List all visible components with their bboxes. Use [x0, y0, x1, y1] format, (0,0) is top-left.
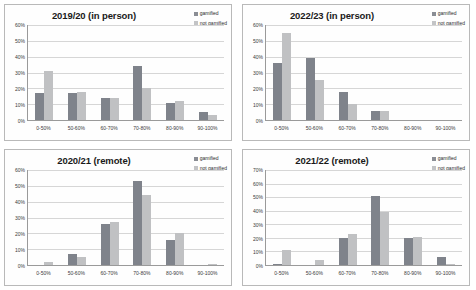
bar-gamified — [273, 63, 282, 120]
y-axis-tick-label: 40% — [253, 54, 263, 60]
chart-panel-1: 2019/20 (in person)gamifiednot gamified0… — [0, 0, 238, 145]
bar-not-gamified — [413, 237, 422, 266]
chart-panel-4: 2021/22 (remote)gamifiednot gamified0%10… — [238, 145, 476, 290]
x-axis-tick-label: 0-50% — [27, 122, 60, 136]
x-axis-tick-label: 80-90% — [396, 122, 429, 136]
y-axis-tick-label: 0% — [18, 118, 25, 124]
y-axis-tick-label: 60% — [253, 22, 263, 28]
y-axis-tick-label: 20% — [15, 86, 25, 92]
bar-not-gamified — [208, 264, 217, 265]
plot-wrapper: 0%10%20%30%40%50%60%0-50%50-60%60-70%70-… — [5, 25, 228, 138]
bar-not-gamified — [315, 80, 324, 120]
y-axis-tick-label: 70% — [253, 167, 263, 173]
x-axis-tick-label: 90-100% — [429, 267, 462, 281]
x-axis-tick-label: 70-80% — [363, 267, 396, 281]
y-axis-tick-label: 10% — [15, 102, 25, 108]
bar-group — [266, 25, 299, 120]
bar-gamified — [133, 66, 142, 120]
x-axis-tick-label: 50-60% — [60, 267, 93, 281]
legend-swatch-icon — [432, 157, 436, 161]
y-axis-tick-label: 60% — [253, 181, 263, 187]
y-axis-tick-label: 60% — [15, 167, 25, 173]
plot-wrapper: 0%10%20%30%40%50%60%0-50%50-60%60-70%70-… — [5, 170, 228, 283]
bar-not-gamified — [110, 98, 119, 120]
plot-wrapper: 0%10%20%30%40%50%60%0-50%50-60%60-70%70-… — [243, 25, 466, 138]
legend-item-gamified: gamified — [432, 9, 465, 19]
bars-layer — [28, 25, 224, 120]
bar-gamified — [68, 93, 77, 120]
bars-layer — [28, 170, 224, 265]
bar-gamified — [199, 112, 208, 120]
y-axis-tick-label: 30% — [253, 70, 263, 76]
y-axis: 0%10%20%30%40%50%60%70% — [243, 170, 265, 266]
bar-group — [299, 170, 332, 265]
bar-not-gamified — [315, 260, 324, 265]
bar-group — [364, 170, 397, 265]
x-axis-tick-label: 80-90% — [396, 267, 429, 281]
bar-group — [299, 25, 332, 120]
bar-not-gamified — [282, 250, 291, 265]
bar-group — [429, 170, 462, 265]
x-axis-tick-label: 50-60% — [298, 267, 331, 281]
y-axis-tick-label: 20% — [15, 231, 25, 237]
x-axis-tick-label: 60-70% — [93, 267, 126, 281]
bars-layer — [266, 25, 462, 120]
bar-gamified — [273, 264, 282, 265]
bar-group — [266, 170, 299, 265]
chart-frame: 2019/20 (in person)gamifiednot gamified0… — [4, 4, 232, 141]
y-axis-tick-label: 50% — [253, 194, 263, 200]
bar-group — [191, 25, 224, 120]
legend-swatch-icon — [432, 12, 436, 16]
plot-area — [265, 170, 462, 266]
bar-not-gamified — [348, 234, 357, 265]
x-axis: 0-50%50-60%60-70%70-80%80-90%90-100% — [265, 122, 462, 136]
bar-group — [429, 25, 462, 120]
y-axis-tick-label: 50% — [15, 183, 25, 189]
chart-grid: 2019/20 (in person)gamifiednot gamified0… — [0, 0, 476, 290]
legend-label: gamified — [200, 154, 219, 164]
x-axis-tick-label: 90-100% — [191, 122, 224, 136]
x-axis-tick-label: 70-80% — [363, 122, 396, 136]
y-axis-tick-label: 50% — [253, 38, 263, 44]
bar-gamified — [437, 257, 446, 265]
bar-not-gamified — [175, 101, 184, 120]
bar-not-gamified — [44, 71, 53, 120]
chart-panel-2: 2022/23 (in person)gamifiednot gamified0… — [238, 0, 476, 145]
chart-panel-3: 2020/21 (remote)gamifiednot gamified0%10… — [0, 145, 238, 290]
y-axis: 0%10%20%30%40%50%60% — [243, 25, 265, 121]
y-axis-tick-label: 60% — [15, 22, 25, 28]
bar-group — [397, 25, 430, 120]
bar-gamified — [101, 98, 110, 120]
x-axis-tick-label: 70-80% — [125, 122, 158, 136]
bar-gamified — [339, 238, 348, 265]
legend-swatch-icon — [194, 157, 198, 161]
bar-gamified — [166, 103, 175, 120]
y-axis-tick-label: 50% — [15, 38, 25, 44]
bar-gamified — [166, 240, 175, 265]
legend-item-gamified: gamified — [194, 9, 227, 19]
bar-group — [364, 25, 397, 120]
y-axis-tick-label: 40% — [15, 54, 25, 60]
bar-group — [191, 170, 224, 265]
plot-area — [265, 25, 462, 121]
plot-wrapper: 0%10%20%30%40%50%60%70%0-50%50-60%60-70%… — [243, 170, 466, 283]
y-axis: 0%10%20%30%40%50%60% — [5, 170, 27, 266]
bar-group — [126, 25, 159, 120]
bar-group — [61, 170, 94, 265]
x-axis: 0-50%50-60%60-70%70-80%80-90%90-100% — [265, 267, 462, 281]
bar-group — [159, 25, 192, 120]
bar-not-gamified — [77, 92, 86, 121]
legend-label: gamified — [438, 9, 457, 19]
bar-gamified — [371, 196, 380, 265]
bar-not-gamified — [44, 262, 53, 265]
x-axis: 0-50%50-60%60-70%70-80%80-90%90-100% — [27, 122, 224, 136]
x-axis-tick-label: 50-60% — [60, 122, 93, 136]
y-axis-tick-label: 10% — [15, 247, 25, 253]
chart-frame: 2020/21 (remote)gamifiednot gamified0%10… — [4, 149, 232, 286]
y-axis-tick-label: 30% — [15, 70, 25, 76]
bar-not-gamified — [380, 212, 389, 265]
y-axis-tick-label: 0% — [256, 263, 263, 269]
y-axis-tick-label: 20% — [253, 86, 263, 92]
bar-group — [61, 25, 94, 120]
y-axis-tick-label: 0% — [256, 118, 263, 124]
